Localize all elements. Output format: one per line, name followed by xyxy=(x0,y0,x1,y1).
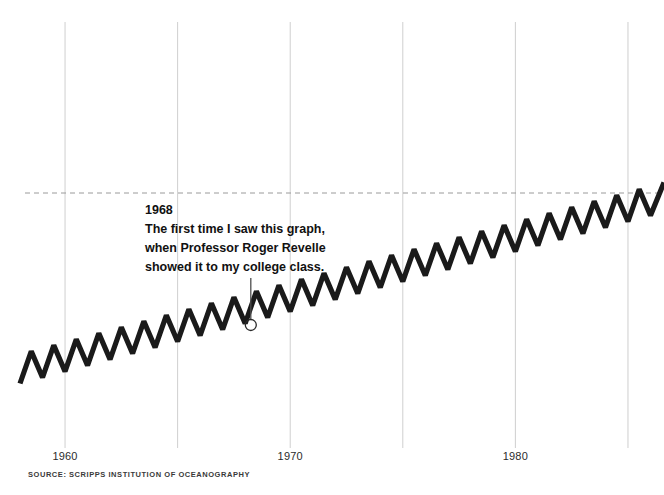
x-tick-label-1970: 1970 xyxy=(278,450,303,462)
annotation-year-label: 1968 xyxy=(145,202,360,219)
annotation-line-2: when Professor Roger Revelle xyxy=(145,239,360,258)
annotation-line-3: showed it to my college class. xyxy=(145,258,360,277)
annotation-marker-circle xyxy=(245,320,256,331)
x-tick-label-1980: 1980 xyxy=(503,450,528,462)
source-credit: SOURCE: SCRIPPS INSTITUTION OF OCEANOGRA… xyxy=(28,470,250,479)
annotation-1968: 1968 The first time I saw this graph, wh… xyxy=(145,202,360,277)
annotation-line-1: The first time I saw this graph, xyxy=(145,220,360,239)
keeling-curve-chart: 196019701980 1968 The first time I saw t… xyxy=(0,0,664,495)
x-tick-label-1960: 1960 xyxy=(52,450,77,462)
